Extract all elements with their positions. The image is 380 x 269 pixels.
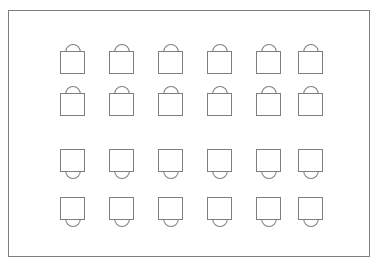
icon-body-square bbox=[208, 197, 232, 219]
icon-body-square bbox=[61, 94, 85, 116]
bulb-icon-r4c5[interactable] bbox=[256, 196, 279, 226]
icon-arc-below bbox=[262, 219, 277, 226]
icon-arc-above bbox=[304, 86, 319, 93]
bag-icon-r1c3[interactable] bbox=[158, 43, 181, 73]
icon-body-square bbox=[110, 149, 134, 171]
icon-body-square bbox=[159, 52, 183, 74]
screenshot-root bbox=[0, 0, 380, 269]
icon-arc-below bbox=[164, 219, 179, 226]
icon-body-square bbox=[159, 94, 183, 116]
icon-arc-below bbox=[115, 171, 130, 178]
icon-body-square bbox=[257, 149, 281, 171]
bag-icon-r1c2[interactable] bbox=[109, 43, 132, 73]
icon-body-square bbox=[110, 94, 134, 116]
icon-body-square bbox=[110, 52, 134, 74]
icon-arc-below bbox=[66, 219, 81, 226]
icon-arc-below bbox=[304, 219, 319, 226]
icon-arc-below bbox=[304, 171, 319, 178]
bag-icon-r1c5[interactable] bbox=[256, 43, 279, 73]
bulb-icon-r3c6[interactable] bbox=[298, 148, 321, 178]
icon-body-square bbox=[159, 149, 183, 171]
bulb-icon-r4c3[interactable] bbox=[158, 196, 181, 226]
icon-arc-above bbox=[164, 44, 179, 51]
bulb-icon-r4c1[interactable] bbox=[60, 196, 83, 226]
bulb-icon-r4c2[interactable] bbox=[109, 196, 132, 226]
icon-arc-above bbox=[304, 44, 319, 51]
icon-arc-below bbox=[164, 171, 179, 178]
icon-body-square bbox=[257, 197, 281, 219]
icon-arc-above bbox=[262, 86, 277, 93]
icon-grid bbox=[9, 11, 369, 256]
icon-arc-above bbox=[66, 86, 81, 93]
icon-arc-below bbox=[262, 171, 277, 178]
icon-body-square bbox=[110, 197, 134, 219]
icon-body-square bbox=[61, 197, 85, 219]
bag-icon-r2c1[interactable] bbox=[60, 85, 83, 115]
icon-body-square bbox=[208, 52, 232, 74]
icon-arc-above bbox=[66, 44, 81, 51]
icon-arc-below bbox=[66, 171, 81, 178]
icon-arc-below bbox=[115, 219, 130, 226]
icon-arc-above bbox=[115, 86, 130, 93]
bag-icon-r1c1[interactable] bbox=[60, 43, 83, 73]
bulb-icon-r4c6[interactable] bbox=[298, 196, 321, 226]
icon-body-square bbox=[159, 197, 183, 219]
icon-body-square bbox=[299, 52, 323, 74]
icon-body-square bbox=[299, 197, 323, 219]
bulb-icon-r3c1[interactable] bbox=[60, 148, 83, 178]
bag-icon-r1c4[interactable] bbox=[207, 43, 230, 73]
bag-icon-r2c6[interactable] bbox=[298, 85, 321, 115]
bag-icon-r2c5[interactable] bbox=[256, 85, 279, 115]
bulb-icon-r3c3[interactable] bbox=[158, 148, 181, 178]
icon-body-square bbox=[208, 149, 232, 171]
bulb-icon-r3c2[interactable] bbox=[109, 148, 132, 178]
icon-body-square bbox=[208, 94, 232, 116]
bulb-icon-r3c4[interactable] bbox=[207, 148, 230, 178]
icon-arc-above bbox=[115, 44, 130, 51]
bag-icon-r2c4[interactable] bbox=[207, 85, 230, 115]
icon-arc-below bbox=[213, 219, 228, 226]
bulb-icon-r3c5[interactable] bbox=[256, 148, 279, 178]
icon-body-square bbox=[257, 94, 281, 116]
icon-arc-above bbox=[262, 44, 277, 51]
icon-arc-above bbox=[213, 86, 228, 93]
bag-icon-r2c3[interactable] bbox=[158, 85, 181, 115]
icon-body-square bbox=[257, 52, 281, 74]
icon-arc-below bbox=[213, 171, 228, 178]
outer-border-rectangle bbox=[8, 10, 370, 257]
icon-body-square bbox=[299, 94, 323, 116]
icon-arc-above bbox=[213, 44, 228, 51]
icon-arc-above bbox=[164, 86, 179, 93]
icon-body-square bbox=[61, 52, 85, 74]
icon-body-square bbox=[299, 149, 323, 171]
bag-icon-r1c6[interactable] bbox=[298, 43, 321, 73]
icon-body-square bbox=[61, 149, 85, 171]
bag-icon-r2c2[interactable] bbox=[109, 85, 132, 115]
bulb-icon-r4c4[interactable] bbox=[207, 196, 230, 226]
